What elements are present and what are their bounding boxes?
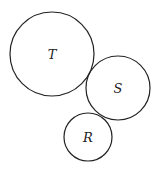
- tangent-circles-diagram: T S R: [0, 0, 158, 173]
- circle-r: R: [64, 113, 112, 161]
- label-r: R: [82, 130, 93, 145]
- label-s: S: [114, 81, 123, 96]
- label-t: T: [48, 47, 58, 62]
- circle-s: S: [86, 56, 150, 120]
- circle-t: T: [10, 12, 94, 96]
